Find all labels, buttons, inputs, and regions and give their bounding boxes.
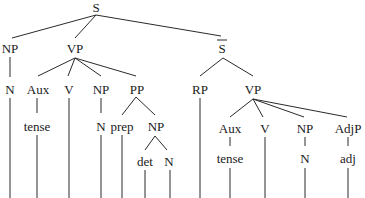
node-n: N	[5, 82, 15, 97]
node-np: NP	[297, 121, 314, 136]
node-tense: tense	[217, 151, 244, 166]
syntax-tree: S NP VP S N Aux V NP PP RP VP tense N pr…	[0, 0, 365, 198]
node-s-bar: S	[218, 41, 225, 56]
node-vp: VP	[67, 41, 84, 56]
node-det: det	[137, 154, 153, 169]
node-tense: tense	[24, 119, 51, 134]
node-s: S	[92, 0, 99, 15]
node-np: NP	[148, 119, 165, 134]
node-aux: Aux	[27, 82, 50, 97]
node-prep: prep	[110, 119, 133, 134]
node-np: NP	[93, 82, 110, 97]
node-v: V	[260, 121, 270, 136]
node-rp: RP	[192, 82, 208, 97]
node-pp: PP	[130, 82, 144, 97]
tree-labels: S NP VP S N Aux V NP PP RP VP tense N pr…	[2, 0, 362, 169]
tree-edges	[10, 15, 348, 198]
node-n: N	[164, 154, 174, 169]
node-adj: adj	[340, 151, 356, 166]
node-n: N	[96, 119, 106, 134]
node-n: N	[300, 151, 310, 166]
node-aux: Aux	[219, 121, 242, 136]
node-vp: VP	[245, 82, 262, 97]
node-np: NP	[2, 41, 19, 56]
node-v: V	[64, 82, 74, 97]
node-adjp: AdjP	[335, 121, 362, 136]
